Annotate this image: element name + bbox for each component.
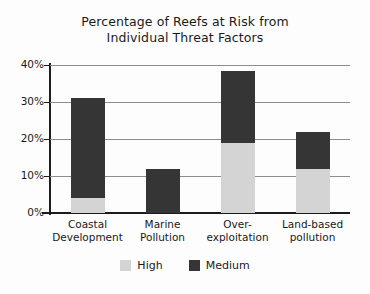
y-axis-labels: 0%10%20%30%40%: [0, 0, 44, 294]
bar-segment-high[interactable]: [71, 198, 105, 213]
y-tick-mark: [44, 139, 50, 140]
x-axis-category-label-line: Land-based: [265, 218, 361, 231]
chart-title: Percentage of Reefs at Risk from Individ…: [0, 14, 370, 46]
legend-item-medium[interactable]: Medium: [189, 259, 250, 272]
y-tick-label: 0%: [4, 206, 44, 218]
y-tick-mark: [44, 213, 50, 214]
y-tick-label: 40%: [4, 58, 44, 70]
bar-segment-medium[interactable]: [296, 132, 330, 169]
bar-segment-medium[interactable]: [146, 169, 180, 213]
bar-group[interactable]: [221, 65, 255, 213]
chart-legend: HighMedium: [0, 259, 370, 272]
bar-group[interactable]: [71, 65, 105, 213]
y-tick-label: 20%: [4, 132, 44, 144]
legend-label: High: [137, 259, 162, 272]
bar-group[interactable]: [296, 65, 330, 213]
y-tick-mark: [44, 102, 50, 103]
x-axis-category-label-line: pollution: [265, 231, 361, 244]
y-tick-mark: [44, 176, 50, 177]
y-tick-mark: [44, 65, 50, 66]
x-axis-category-label: Land-basedpollution: [265, 218, 361, 243]
chart-figure: Percentage of Reefs at Risk from Individ…: [0, 0, 370, 294]
legend-swatch-icon: [189, 260, 200, 271]
chart-title-line-1: Percentage of Reefs at Risk from: [81, 14, 288, 29]
legend-swatch-icon: [120, 260, 131, 271]
plot-area: [50, 65, 350, 213]
legend-item-high[interactable]: High: [120, 259, 162, 272]
y-tick-label: 30%: [4, 95, 44, 107]
bar-segment-medium[interactable]: [71, 98, 105, 198]
chart-title-line-2: Individual Threat Factors: [0, 30, 370, 46]
bar-segment-high[interactable]: [221, 143, 255, 213]
legend-label: Medium: [206, 259, 250, 272]
y-tick-label: 10%: [4, 169, 44, 181]
bar-segment-medium[interactable]: [221, 71, 255, 143]
bar-group[interactable]: [146, 65, 180, 213]
gridline-0: [50, 213, 350, 214]
bar-segment-high[interactable]: [296, 169, 330, 213]
